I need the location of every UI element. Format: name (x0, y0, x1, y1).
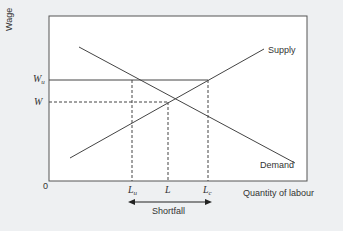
w-label: W (34, 96, 42, 107)
l-label: L (165, 184, 171, 195)
origin-label: 0 (43, 181, 48, 191)
demand-label: Demand (260, 160, 294, 170)
lc-label: Lc (203, 184, 212, 197)
arrow-left-icon (128, 199, 135, 205)
y-axis-label: Wage (4, 8, 14, 31)
x-axis-label: Quantity of labour (243, 188, 314, 198)
wu-label: Wu (33, 73, 45, 86)
lu-label: Lu (128, 184, 137, 197)
plot-area (49, 16, 307, 181)
arrow-right-icon (205, 199, 212, 205)
shortfall-label: Shortfall (152, 206, 185, 216)
supply-label: Supply (268, 45, 296, 55)
